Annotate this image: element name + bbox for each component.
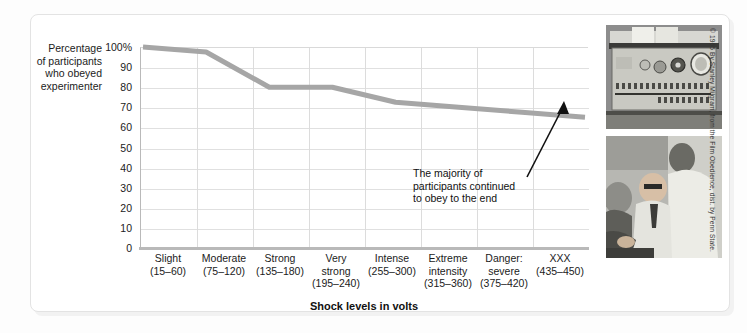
y-tick-label: 70: [92, 101, 132, 113]
y-tick-label: 50: [92, 142, 132, 154]
annotation-line-3: to obey to the end: [413, 192, 538, 205]
annotation-arrow-icon: [505, 95, 585, 185]
shock-generator-photo: [606, 25, 722, 129]
y-tick-label: 100%: [92, 41, 132, 53]
x-axis-title: Shock levels in volts: [140, 300, 588, 312]
y-axis-title-line-4: experimenter: [18, 80, 102, 93]
milgram-obedience-figure: Percentage of participants who obeyed ex…: [0, 0, 747, 333]
y-axis-title-line-3: who obeyed: [18, 67, 102, 80]
y-axis-title-line-2: of participants: [18, 55, 102, 68]
y-axis-title-line-1: Percentage: [18, 42, 102, 55]
x-tick-label-line: (375–420): [466, 277, 542, 290]
x-tick-label-line: XXX: [522, 252, 598, 265]
y-tick-label: 10: [92, 222, 132, 234]
experiment-session-photo: [606, 136, 722, 258]
y-tick-label: 90: [92, 61, 132, 73]
y-tick-label: 20: [92, 202, 132, 214]
y-axis-ticks: 0102030405060708090100%: [92, 0, 138, 333]
x-tick-label: XXX(435–450): [522, 252, 598, 277]
y-axis-title: Percentage of participants who obeyed ex…: [18, 42, 102, 92]
y-tick-label: 40: [92, 162, 132, 174]
y-tick-label: 30: [92, 182, 132, 194]
y-tick-label: 60: [92, 121, 132, 133]
photo-credit: © 1965 By Stanley Milgram, from the Film…: [709, 28, 716, 258]
x-axis-ticks: Slight(15–60)Moderate(75–120)Strong(135–…: [140, 252, 588, 298]
y-tick-label: 80: [92, 81, 132, 93]
x-tick-label-line: (435–450): [522, 265, 598, 278]
x-tick-label-line: (195–240): [298, 277, 374, 290]
y-tick-label: 0: [92, 242, 132, 254]
